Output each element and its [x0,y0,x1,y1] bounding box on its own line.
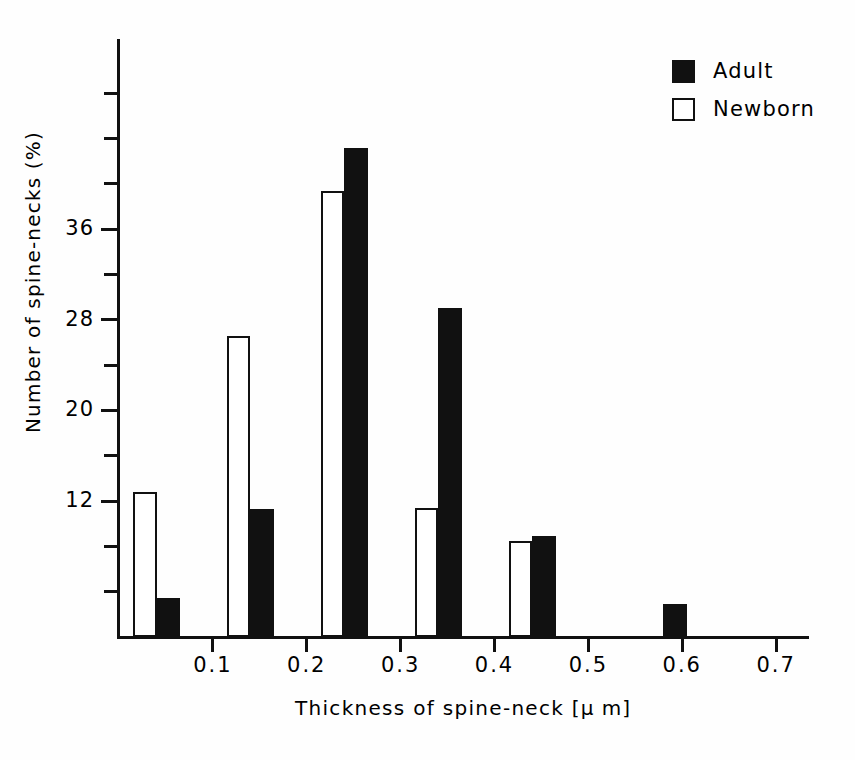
x-axis-title-unit: [μ m] [572,696,631,720]
y-axis-tick [101,318,117,321]
bar-newborn [227,336,250,637]
bar-adult [344,148,367,637]
y-axis-tick [101,500,117,503]
bar-adult [157,598,180,637]
x-axis-tick-label: 0.4 [475,655,514,676]
y-axis-tick-label: 12 [50,490,94,511]
x-axis-tick [211,639,214,652]
legend-item-adult: Adult [672,52,847,90]
x-axis-title: Thickness of spine-neck [μ m] [117,696,809,720]
legend: Adult Newborn [672,52,847,128]
y-axis-tick [104,137,117,140]
x-axis-tick [493,639,496,652]
x-axis-tick [681,639,684,652]
x-axis-tick-label: 0.7 [756,655,795,676]
y-axis-tick [101,409,117,412]
y-axis-tick [104,545,117,548]
bar-newborn [133,492,156,637]
bar-adult [250,509,273,637]
y-axis-tick [101,228,117,231]
y-axis-tick [104,182,117,185]
bar-adult [663,604,686,637]
y-axis-tick-label: 20 [50,399,94,420]
y-axis-title: Number of spine-necks (%) [21,117,45,447]
x-axis-tick-label: 0.5 [569,655,608,676]
x-axis-tick-label: 0.3 [381,655,420,676]
y-axis-tick [104,92,117,95]
bar-newborn [415,508,438,637]
bar-newborn [321,191,344,637]
y-axis-tick [104,590,117,593]
legend-label-newborn: Newborn [713,99,815,120]
bar-newborn [509,541,532,637]
y-axis-tick [104,364,117,367]
y-axis-tick [104,273,117,276]
bar-adult [532,536,555,637]
x-axis-tick [775,639,778,652]
x-axis-tick-label: 0.6 [663,655,702,676]
chart-figure: 12202836 0.10.20.30.40.50.60.7 Number of… [0,0,855,760]
x-axis-tick [305,639,308,652]
x-axis-tick-label: 0.2 [287,655,326,676]
y-axis-tick [104,454,117,457]
open-square-icon [672,98,695,121]
filled-square-icon [672,60,695,83]
bars-layer [119,39,809,637]
x-axis-tick [587,639,590,652]
y-axis-tick-label: 28 [50,309,94,330]
x-axis-tick [399,639,402,652]
x-axis-title-text: Thickness of spine-neck [295,696,564,720]
bar-adult [438,308,461,637]
legend-item-newborn: Newborn [672,90,847,128]
x-axis-tick-label: 0.1 [193,655,232,676]
legend-label-adult: Adult [713,61,774,82]
y-axis-tick-label: 36 [50,218,94,239]
